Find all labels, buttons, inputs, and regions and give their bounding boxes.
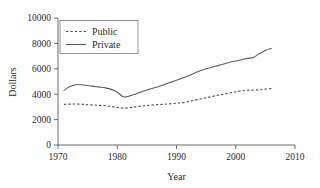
- y-tick-marks: [54, 18, 58, 145]
- x-tick-label-2000: 2000: [226, 152, 245, 162]
- series-line-private: [64, 48, 271, 96]
- x-tick-label-1980: 1980: [108, 152, 127, 162]
- y-tick-label-2000: 2000: [32, 115, 51, 125]
- series-group: [64, 48, 271, 108]
- series-line-public: [64, 88, 271, 108]
- y-axis: 0 2000 4000 6000 8000 10000 Dollars: [7, 13, 58, 150]
- legend-label-public: Public: [92, 26, 118, 37]
- x-tick-label-1990: 1990: [167, 152, 186, 162]
- legend-label-private: Private: [92, 39, 121, 50]
- legend: Public Private: [60, 21, 138, 54]
- x-tick-label-2010: 2010: [286, 152, 305, 162]
- x-axis-title: Year: [167, 171, 186, 182]
- x-tick-label-1970: 1970: [49, 152, 68, 162]
- y-tick-label-0: 0: [46, 140, 51, 150]
- y-tick-label-8000: 8000: [32, 39, 51, 49]
- x-tick-marks: [58, 145, 295, 149]
- y-tick-label-4000: 4000: [32, 90, 51, 100]
- line-chart: 0 2000 4000 6000 8000 10000 Dollars 1970…: [0, 0, 320, 188]
- chart-figure: 0 2000 4000 6000 8000 10000 Dollars 1970…: [0, 0, 320, 188]
- x-axis: 1970 1980 1990 2000 2010 Year: [49, 145, 305, 182]
- y-tick-label-6000: 6000: [32, 64, 51, 74]
- y-tick-label-10000: 10000: [27, 13, 51, 23]
- y-axis-title: Dollars: [7, 67, 18, 97]
